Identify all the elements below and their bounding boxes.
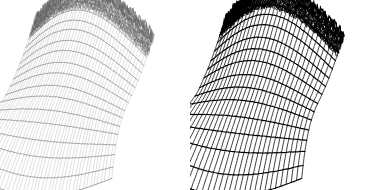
right-mesh-surface bbox=[190, 0, 380, 190]
left-mesh-surface bbox=[0, 0, 190, 190]
right-wireframe-plot bbox=[190, 0, 380, 190]
left-wireframe-plot bbox=[0, 0, 190, 190]
figure-panel bbox=[0, 0, 381, 190]
